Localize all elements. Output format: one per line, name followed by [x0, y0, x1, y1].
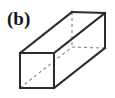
solid-edges-group	[20, 12, 105, 88]
panel-label: (b)	[7, 9, 30, 28]
edge-depth-bottom-right	[54, 48, 105, 88]
figure-panel: (b)	[0, 0, 115, 98]
edge-back-top	[72, 12, 105, 13]
hidden-edge-back-bottom-horizontal	[72, 47, 105, 48]
